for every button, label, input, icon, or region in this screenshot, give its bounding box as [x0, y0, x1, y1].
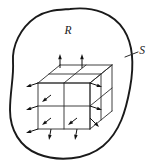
divergence-theorem-figure: R S — [0, 0, 159, 168]
surface-label-S: S — [139, 44, 145, 56]
figure-canvas: R S — [0, 0, 159, 168]
region-label-R: R — [63, 24, 71, 36]
